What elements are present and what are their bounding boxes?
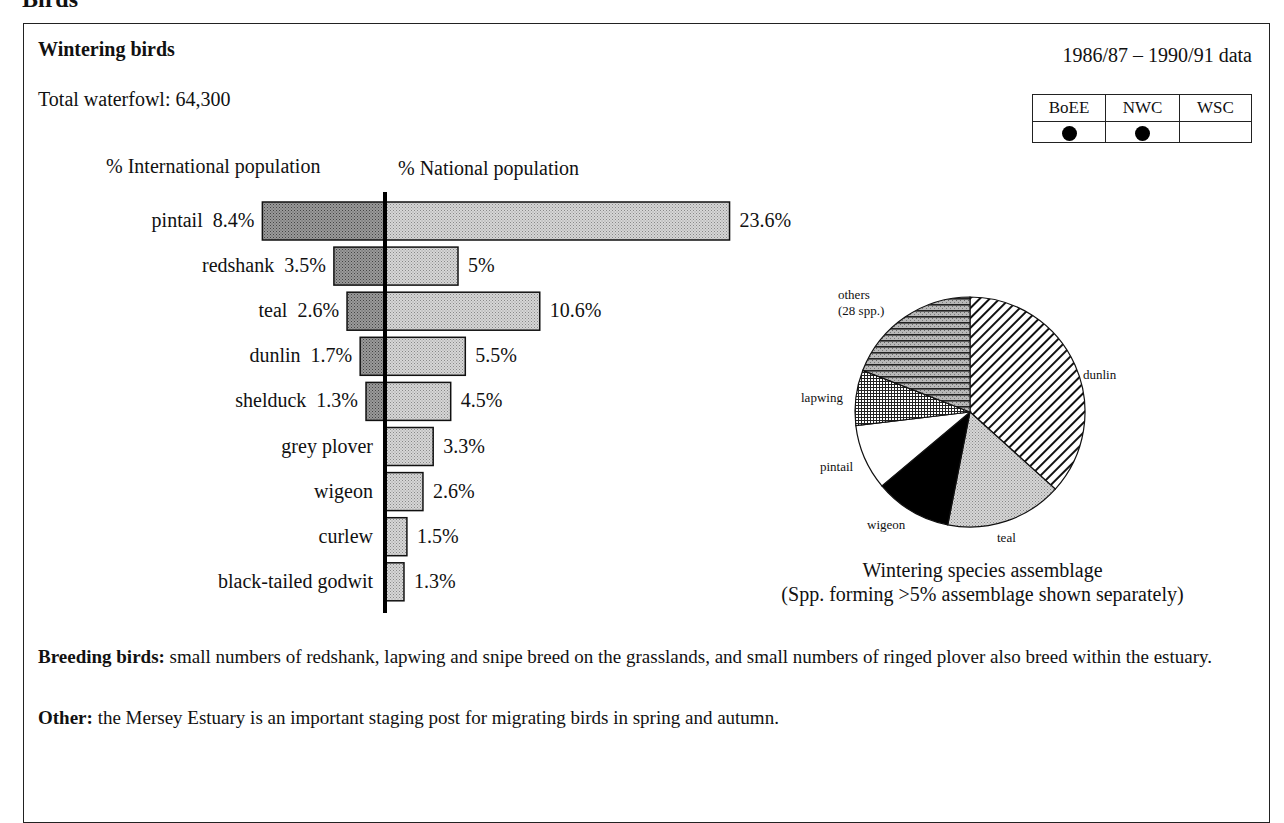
pie-label-lapwing: lapwing <box>801 390 843 406</box>
intl-bar <box>347 292 385 330</box>
intl-bar <box>262 202 385 240</box>
category-label: curlew <box>319 525 373 548</box>
pie-label-others-count: (28 spp.) <box>838 303 884 319</box>
intl-bar <box>366 382 385 420</box>
natl-bar <box>385 382 451 420</box>
category-label: grey plover <box>281 435 373 458</box>
pie-label-teal: teal <box>997 530 1016 546</box>
natl-bar <box>385 337 465 375</box>
natl-bar <box>385 247 458 285</box>
natl-value-label: 4.5% <box>461 389 503 412</box>
pie-label-others: others <box>838 287 870 303</box>
category-label: wigeon <box>314 480 373 503</box>
other-label: Other: <box>38 707 93 728</box>
other-text: the Mersey Estuary is an important stagi… <box>93 707 779 728</box>
natl-bar <box>385 428 433 466</box>
natl-value-label: 5% <box>468 254 495 277</box>
breeding-label: Breeding birds: <box>38 646 165 667</box>
pie-chart <box>855 297 1085 527</box>
natl-bar <box>385 473 423 511</box>
natl-value-label: 1.5% <box>417 525 459 548</box>
category-label: black-tailed godwit <box>218 570 373 593</box>
natl-bar <box>385 292 540 330</box>
category-label: redshank 3.5% <box>202 254 326 277</box>
natl-value-label: 3.3% <box>443 435 485 458</box>
category-label: pintail 8.4% <box>152 209 255 232</box>
pie-caption-title: Wintering species assemblage <box>700 558 1265 582</box>
category-label: teal 2.6% <box>259 299 340 322</box>
pie-label-wigeon: wigeon <box>867 517 905 533</box>
breeding-birds-note: Breeding birds: small numbers of redshan… <box>38 644 1258 669</box>
natl-value-label: 5.5% <box>475 344 517 367</box>
natl-value-label: 2.6% <box>433 480 475 503</box>
natl-bar <box>385 518 407 556</box>
breeding-text: small numbers of redshank, lapwing and s… <box>165 646 1212 667</box>
pie-caption-subtitle: (Spp. forming >5% assemblage shown separ… <box>700 582 1265 606</box>
natl-bar <box>385 563 404 601</box>
natl-value-label: 10.6% <box>550 299 602 322</box>
natl-bar <box>385 202 730 240</box>
intl-bar <box>334 247 385 285</box>
category-label: shelduck 1.3% <box>235 389 358 412</box>
pie-label-dunlin: dunlin <box>1083 367 1116 383</box>
pie-label-pintail: pintail <box>820 459 853 475</box>
other-note: Other: the Mersey Estuary is an importan… <box>38 705 1258 730</box>
natl-value-label: 1.3% <box>414 570 456 593</box>
intl-bar <box>360 337 385 375</box>
natl-value-label: 23.6% <box>740 209 792 232</box>
category-label: dunlin 1.7% <box>249 344 352 367</box>
